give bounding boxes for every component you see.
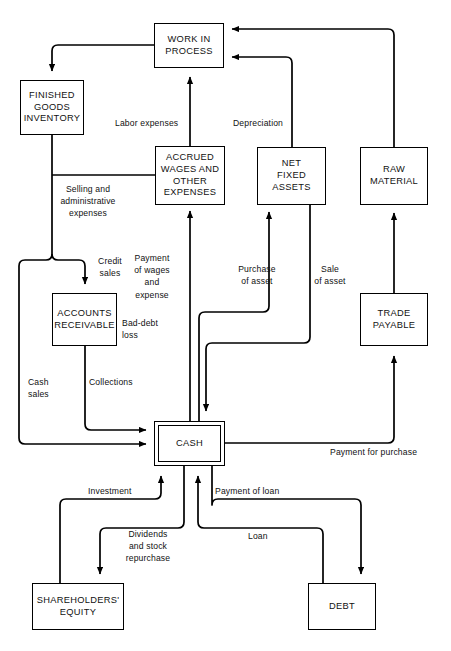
edge-label-payment-for-purchase: Payment for purchase [330,446,417,458]
node-label: ACCRUED WAGES AND OTHER EXPENSES [161,152,220,200]
edge-label-loan: Loan [248,530,268,542]
node-net-fixed-assets[interactable]: NET FIXED ASSETS [257,147,326,205]
node-label: WORK IN PROCESS [165,34,213,58]
node-trade-payable[interactable]: TRADE PAYABLE [360,293,428,346]
node-raw-material[interactable]: RAW MATERIAL [360,147,428,205]
edge-label-cash-sales: Cash sales [28,376,49,400]
node-label: SHAREHOLDERS' EQUITY [37,595,120,619]
node-work-in-process[interactable]: WORK IN PROCESS [154,23,224,68]
node-label: TRADE PAYABLE [373,308,415,332]
node-label: CASH [176,438,203,450]
edge-nfa-to-cash [206,205,310,411]
edge-label-payment-of-loan: Payment of loan [215,485,279,497]
edge-label-labor-expenses: Labor expenses [115,117,178,129]
edge-label-payment-of-wages-and-expense: Payment of wages and expense [134,252,170,301]
edge-cash-to-trade [225,356,394,443]
edge-label-depreciation: Depreciation [233,117,283,129]
node-shareholders-equity[interactable]: SHAREHOLDERS' EQUITY [32,583,124,630]
edge-label-dividends-and-stock-repurchase: Dividends and stock repurchase [126,528,171,565]
edge-wip-to-finished-goods [52,45,154,71]
node-label: NET FIXED ASSETS [272,158,310,194]
node-cash[interactable]: CASH [154,421,225,466]
node-debt[interactable]: DEBT [308,583,376,630]
edge-cash-to-debt [212,466,361,574]
edge-label-credit-sales: Credit sales [98,255,122,279]
edge-label-collections: Collections [89,376,133,388]
node-finished-goods-inventory[interactable]: FINISHED GOODS INVENTORY [20,80,84,135]
edge-label-selling-and-administrative-expenses: Selling and administrative expenses [60,183,115,220]
node-cash-inner-frame: CASH [158,425,221,462]
edge-label-bad-debt-loss: Bad-debt loss [122,317,158,341]
flowchart-diagram: WORK IN PROCESS FINISHED GOODS INVENTORY… [0,0,451,651]
node-label: FINISHED GOODS INVENTORY [24,90,81,126]
edge-label-investment: Investment [88,485,132,497]
edge-label-sale-of-asset: Sale of asset [314,263,345,287]
node-label: ACCOUNTS RECEIVABLE [54,308,115,332]
node-accrued-wages-and-other-expenses[interactable]: ACCRUED WAGES AND OTHER EXPENSES [155,146,225,205]
edge-nfa-to-wip [232,57,292,147]
node-accounts-receivable[interactable]: ACCOUNTS RECEIVABLE [52,293,117,346]
edge-raw-to-wip [232,29,394,147]
edge-fg-to-cash-cashsales [19,254,146,444]
edge-label-purchase-of-asset: Purchase of asset [238,263,276,287]
node-label: RAW MATERIAL [370,164,418,188]
node-label: DEBT [329,601,355,613]
edge-cash-to-nfa [199,212,269,421]
